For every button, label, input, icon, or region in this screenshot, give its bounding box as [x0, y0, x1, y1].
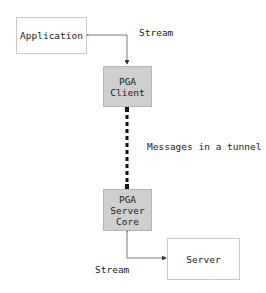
pga-server-core-node: PGA Server Core	[103, 189, 152, 231]
application-node: Application	[16, 17, 87, 54]
stream-label-top: Stream	[139, 27, 173, 38]
stream-connector-bottom	[127, 232, 166, 258]
server-node: Server	[167, 238, 240, 280]
tunnel-label: Messages in a tunnel	[147, 141, 261, 152]
pga-client-node: PGA Client	[103, 66, 152, 107]
stream-label-bottom: Stream	[95, 264, 129, 275]
stream-connector-top	[88, 35, 127, 64]
